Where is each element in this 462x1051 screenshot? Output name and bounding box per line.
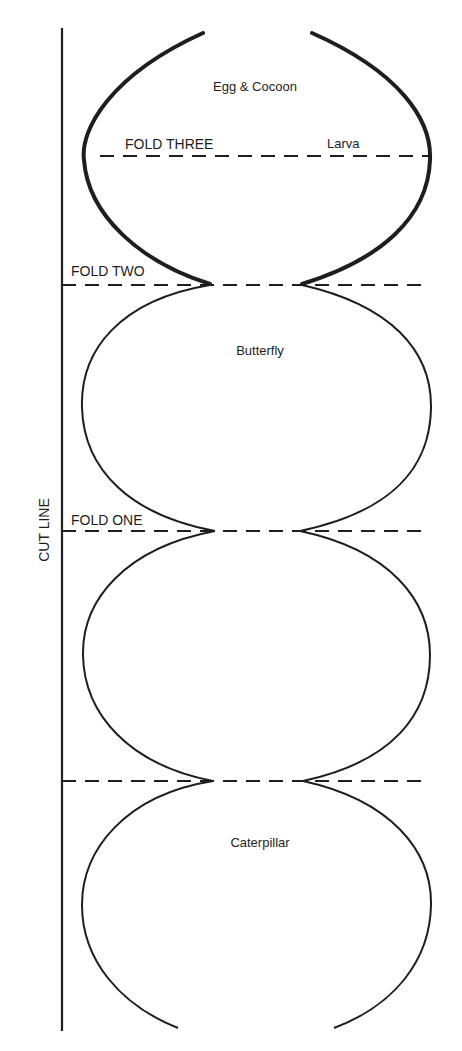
label-egg-cocoon: Egg & Cocoon xyxy=(213,80,297,93)
segment-third-left-arc xyxy=(83,531,215,781)
segment-top-right-arc xyxy=(302,33,430,284)
label-caterpillar: Caterpillar xyxy=(230,836,289,849)
segment-bottom-left-arc xyxy=(82,781,213,1028)
segment-blank xyxy=(83,531,430,781)
segment-butterfly xyxy=(82,285,431,531)
segment-second-right-arc xyxy=(300,285,431,531)
label-fold-one: FOLD ONE xyxy=(71,513,143,527)
label-fold-three: FOLD THREE xyxy=(125,137,213,151)
segment-egg-cocoon xyxy=(84,33,430,284)
segment-top-left-arc xyxy=(84,33,210,284)
segment-bottom-right-arc xyxy=(303,781,431,1028)
life-cycle-fold-template xyxy=(0,0,462,1051)
segment-third-right-arc xyxy=(300,531,430,781)
label-fold-two: FOLD TWO xyxy=(71,264,145,278)
segment-caterpillar xyxy=(82,781,431,1028)
label-cut-line: CUT LINE xyxy=(37,498,51,562)
segment-second-left-arc xyxy=(82,285,215,531)
label-larva: Larva xyxy=(327,137,360,150)
label-butterfly: Butterfly xyxy=(236,344,284,357)
